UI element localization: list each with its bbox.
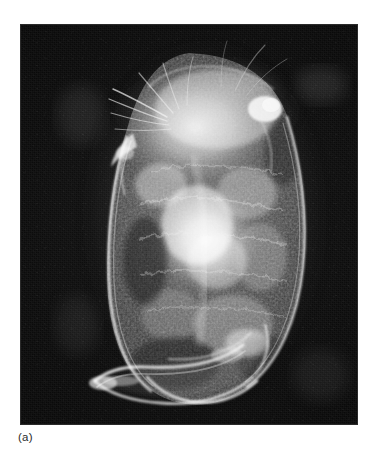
figure-container: (a) — [0, 0, 374, 454]
film-speckle-overlay — [21, 25, 357, 424]
figure-label: (a) — [18, 430, 33, 444]
photomicrograph-plate — [21, 25, 357, 424]
